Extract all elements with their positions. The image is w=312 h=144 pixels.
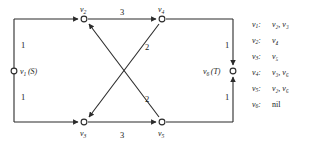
adjacency-targets: nil — [272, 100, 280, 109]
adjacency-row: v5: v₂, v₆ — [252, 84, 312, 100]
edge-weight-v1-v3: 1 — [21, 92, 25, 102]
edge-weight-v1-v2: 1 — [21, 40, 25, 50]
edge-weight-v3-v5: 3 — [120, 130, 124, 140]
node-v4 — [159, 16, 165, 22]
node-label-v3: v3 — [80, 129, 87, 139]
adjacency-key: v2: — [252, 36, 272, 45]
adjacency-row: v2: v₄ — [252, 36, 312, 52]
adjacency-targets: v₄ — [272, 36, 278, 45]
edge-weight-v4-v3: 2 — [145, 42, 149, 52]
node-label-v6: v6(T) — [203, 67, 221, 77]
edge-weight-v5-v6: 1 — [225, 92, 229, 102]
edge-weight-v2-v4: 3 — [120, 7, 124, 17]
edge-weight-v5-v2: 2 — [145, 94, 149, 104]
node-v1 — [11, 68, 17, 74]
adjacency-row: v6: nil — [252, 100, 312, 116]
adjacency-key: v3: — [252, 52, 272, 61]
node-label-v5: v5 — [158, 129, 165, 139]
diagram-canvas: v1(S) v2 v3 v4 v5 v6(T) 1 1 3 3 2 2 1 1 … — [0, 0, 312, 144]
adjacency-targets: v₂, v₃ — [272, 20, 289, 29]
node-label-v1: v1(S) — [20, 67, 38, 77]
adjacency-key: v6: — [252, 100, 272, 109]
adjacency-row: v4: v₃, v₆ — [252, 68, 312, 84]
node-v2 — [81, 16, 87, 22]
adjacency-list: v1: v₂, v₃ v2: v₄ v3: v₅ v4: v₃, v₆ v5: … — [252, 20, 312, 116]
node-v3 — [81, 119, 87, 125]
node-label-v4: v4 — [158, 5, 165, 15]
adjacency-key: v4: — [252, 68, 272, 77]
adjacency-key: v5: — [252, 84, 272, 93]
adjacency-targets: v₃, v₆ — [272, 68, 289, 77]
node-label-v2: v2 — [80, 5, 87, 15]
node-v5 — [159, 119, 165, 125]
adjacency-targets: v₂, v₆ — [272, 84, 289, 93]
adjacency-key: v1: — [252, 20, 272, 29]
adjacency-targets: v₅ — [272, 52, 278, 61]
adjacency-row: v1: v₂, v₃ — [252, 20, 312, 36]
edge-weight-v4-v6: 1 — [225, 40, 229, 50]
adjacency-row: v3: v₅ — [252, 52, 312, 68]
node-v6 — [230, 68, 236, 74]
